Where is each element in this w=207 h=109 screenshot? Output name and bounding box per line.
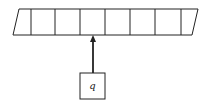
arrowhead-icon (90, 35, 96, 42)
tape-left-torn-edge (13, 9, 19, 35)
head-state-box: q (80, 73, 105, 99)
tape (13, 9, 198, 35)
head-arrow (90, 35, 96, 73)
tape-right-torn-edge (192, 9, 198, 35)
turing-tape-diagram: q (0, 0, 207, 109)
state-label: q (89, 80, 95, 91)
tape-cell-dividers (31, 9, 181, 35)
